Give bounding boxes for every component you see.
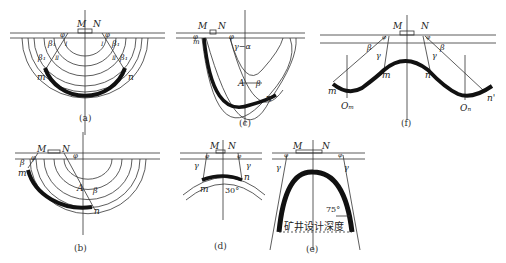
label-b-A: A <box>76 183 84 193</box>
label-a-II-left: Ⅱ <box>54 54 60 61</box>
label-f-m: m <box>382 70 391 80</box>
label-a-phi-right: φ <box>105 31 110 39</box>
label-d-angle: 30° <box>225 186 239 195</box>
label-a-beta1-left-lower: β₁ <box>37 53 46 62</box>
caption-b: (b) <box>74 243 87 253</box>
label-f-On: Oₙ <box>460 103 471 113</box>
label-e-phi-right: φ <box>338 151 343 159</box>
caption-d: (d) <box>214 241 227 251</box>
label-c-n: n <box>266 93 272 103</box>
label-e-design-depth: 矿井设计深度 <box>284 220 344 232</box>
caption-c: (c) <box>239 118 251 128</box>
panel-d <box>180 140 265 220</box>
caption-a: (a) <box>79 113 91 123</box>
label-c-gamma-alpha: γ−α <box>234 42 251 51</box>
label-f-gamma-left: γ <box>376 51 381 60</box>
label-f-Om: Oₘ <box>341 101 354 111</box>
label-a-II-right: Ⅱ <box>111 54 117 61</box>
label-f-n-prime: n' <box>487 93 495 103</box>
label-e-N: N <box>321 141 331 151</box>
label-c-m: m <box>193 38 200 46</box>
label-f-n: n <box>425 70 431 80</box>
caption-e: (e) <box>306 244 318 254</box>
label-a-M: M <box>76 19 87 29</box>
label-b-N: N <box>61 144 71 154</box>
label-f-phi-left: φ <box>382 33 387 41</box>
diagram-canvas: M N φ φ β₁ β₁ β₁ β₁ Ⅰ Ⅰ Ⅱ Ⅱ m n (a) M N … <box>0 0 506 263</box>
label-a-n: n <box>128 72 134 82</box>
label-e-angle: 75° <box>326 205 340 214</box>
label-e-gamma-left: γ <box>276 163 281 172</box>
label-d-N: N <box>227 141 237 151</box>
label-a-m: m <box>37 72 46 82</box>
label-f-gamma-right: γ <box>432 51 437 60</box>
label-b-beta-left: β <box>19 158 25 167</box>
label-a-beta1-right-lower: β₁ <box>119 53 128 62</box>
label-e-gamma-right: γ <box>344 163 349 172</box>
label-d-m: m <box>200 184 209 194</box>
label-c-phi-right: φ <box>229 33 234 41</box>
label-b-phi-right: φ <box>73 152 78 160</box>
label-a-N: N <box>92 19 102 29</box>
label-b-beta-A: β <box>92 186 98 195</box>
label-e-M: M <box>292 141 303 151</box>
label-f-N: N <box>420 21 430 31</box>
label-b-M: M <box>36 144 47 154</box>
label-f-m-left: m <box>328 86 337 96</box>
label-b-m: m <box>18 168 27 178</box>
label-d-n: n <box>244 172 250 182</box>
label-c-N: N <box>217 21 227 31</box>
label-b-n: n <box>94 206 100 216</box>
label-a-I-left: Ⅰ <box>64 40 68 47</box>
label-d-gamma-right: γ <box>246 161 251 170</box>
label-d-M: M <box>209 141 220 151</box>
label-b-phi-left: φ <box>31 154 36 162</box>
label-c-beta: β <box>255 79 261 88</box>
label-f-beta-right: β <box>439 43 445 52</box>
label-e-phi-left: φ <box>284 151 289 159</box>
label-a-beta1-left-upper: β₁ <box>47 39 56 48</box>
label-d-gamma-left: γ <box>194 161 199 170</box>
label-c-A: A <box>237 78 245 88</box>
label-a-phi-left: φ <box>60 31 65 39</box>
label-f-M: M <box>392 21 403 31</box>
label-f-beta-left: β <box>366 43 372 52</box>
caption-f: (f) <box>401 118 411 128</box>
label-a-beta1-right-upper: β₁ <box>111 39 120 48</box>
panel-c <box>176 10 305 125</box>
label-f-phi-right: φ <box>426 33 431 41</box>
label-a-I-right: Ⅰ <box>100 40 104 47</box>
label-c-M: M <box>197 21 208 31</box>
